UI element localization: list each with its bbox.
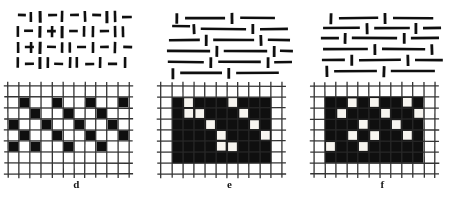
- panel-d: d: [0, 0, 153, 207]
- panel-e-texture: [153, 0, 306, 80]
- panel-e-grid: [153, 80, 306, 180]
- panel-e: e: [153, 0, 306, 207]
- panel-e-caption: e: [153, 178, 306, 190]
- panel-f-caption: f: [306, 178, 459, 190]
- panel-d-grid: [0, 80, 153, 180]
- panel-d-caption: d: [0, 178, 153, 190]
- panel-f-texture: [306, 0, 459, 80]
- cut-off-caption-fragment: [8, 196, 198, 207]
- panel-d-texture: [0, 0, 153, 80]
- panel-f: f: [306, 0, 459, 207]
- panel-f-grid: [306, 80, 459, 180]
- figure-root: d e f: [0, 0, 459, 207]
